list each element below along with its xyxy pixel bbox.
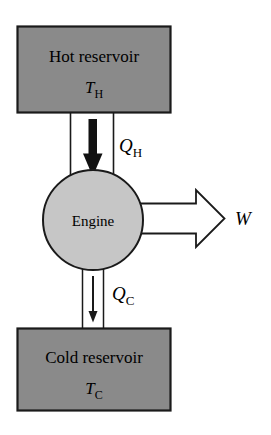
heat-in-subscript: H bbox=[133, 145, 142, 160]
heat-in-arrow-icon bbox=[83, 119, 103, 177]
hot-reservoir-label: Hot reservoir bbox=[49, 47, 140, 66]
heat-out-label: QC bbox=[112, 283, 134, 308]
cold-reservoir-box: Cold reservoir TC bbox=[18, 329, 171, 411]
heat-out-symbol: Q bbox=[112, 283, 126, 304]
heat-out-subscript: C bbox=[126, 293, 135, 308]
engine-node: Engine bbox=[43, 170, 143, 270]
hot-reservoir-temp-subscript: H bbox=[94, 87, 103, 101]
work-output-label: W bbox=[235, 208, 253, 229]
heat-out-arrow-icon bbox=[89, 276, 98, 323]
work-output-arrow-icon bbox=[138, 190, 225, 247]
hot-reservoir-box: Hot reservoir TH bbox=[18, 27, 171, 113]
diagram-canvas: Hot reservoir TH Cold reservoir TC Engin… bbox=[0, 0, 271, 435]
engine-label: Engine bbox=[72, 213, 115, 229]
cold-reservoir-label: Cold reservoir bbox=[45, 348, 143, 367]
heat-in-symbol: Q bbox=[119, 135, 133, 156]
cold-reservoir-temp-subscript: C bbox=[95, 388, 103, 402]
heat-engine-diagram: Hot reservoir TH Cold reservoir TC Engin… bbox=[0, 0, 271, 435]
heat-in-label: QH bbox=[119, 135, 142, 160]
